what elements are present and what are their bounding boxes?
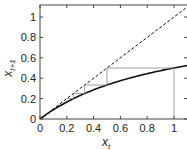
cobweb-chart: 00.20.40.60.8100.20.40.60.81 xt xt+1 [0, 0, 187, 150]
x-tick-label: 1 [171, 122, 177, 134]
y-tick-label: 0.6 [21, 52, 36, 64]
map-curve [40, 65, 187, 119]
plot-area [40, 7, 187, 119]
x-tick-label: 0.2 [59, 122, 74, 134]
y-tick-label: 0.2 [21, 93, 36, 105]
identity-line [40, 7, 187, 119]
x-tick-label: 0 [37, 122, 43, 134]
y-tick-label: 0.4 [21, 72, 36, 84]
y-tick-label: 0.8 [21, 31, 36, 43]
x-tick-label: 0.8 [140, 122, 155, 134]
y-tick-label: 1 [30, 11, 36, 23]
y-axis-label: xt+1 [1, 59, 17, 77]
cobweb-path [67, 68, 174, 119]
y-tick-label: 0 [30, 113, 36, 125]
x-tick-label: 0.4 [86, 122, 101, 134]
x-tick-label: 0.6 [113, 122, 128, 134]
x-axis-label: xt [101, 135, 111, 150]
